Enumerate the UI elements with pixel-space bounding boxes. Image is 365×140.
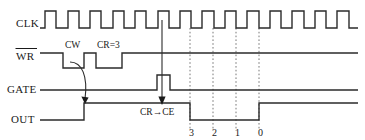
countdown-value-1: 1 (235, 127, 240, 138)
signal-label-clk: CLK (16, 17, 39, 29)
callout-clk-to-out (158, 20, 165, 105)
signal-label-group: CLK WR GATE OUT (7, 17, 39, 125)
waveform-wr (40, 53, 358, 68)
waveform-clk (40, 11, 358, 28)
waveform-gate (40, 75, 358, 90)
gridline-group (190, 28, 259, 131)
countdown-value-3: 3 (189, 127, 194, 138)
signal-label-wr: WR (16, 50, 35, 62)
countdown-value-2: 2 (212, 127, 217, 138)
countdown-value-0: 0 (258, 127, 263, 138)
timing-diagram: CLK WR GATE OUT CW CR=3 CR→CE (0, 0, 365, 140)
annotation-cr: CR=3 (97, 40, 120, 50)
signal-label-gate: GATE (7, 83, 37, 95)
annotation-cr-to-ce: CR→CE (140, 107, 175, 117)
timing-diagram-canvas: CLK WR GATE OUT CW CR=3 CR→CE (0, 0, 365, 140)
callout-vertical-arrowhead (158, 97, 165, 106)
signal-label-out: OUT (11, 113, 35, 125)
annotation-cw: CW (65, 40, 80, 50)
waveform-out (40, 103, 358, 120)
countdown-group: 3 2 1 0 (189, 127, 263, 138)
